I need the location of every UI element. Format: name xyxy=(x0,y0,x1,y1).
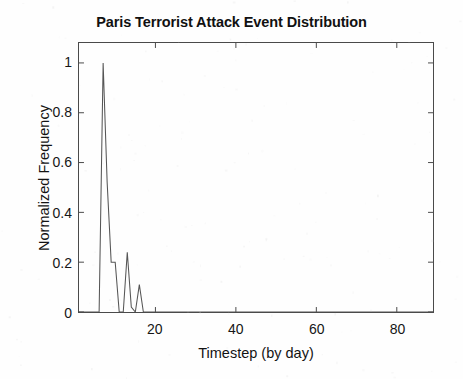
y-axis-ticks xyxy=(79,63,433,312)
plot-svg xyxy=(79,43,433,312)
x-tick-label: 80 xyxy=(390,321,406,337)
figure-canvas: Paris Terrorist Attack Event Distributio… xyxy=(0,0,463,379)
y-tick-label: 0 xyxy=(20,305,72,321)
x-axis-ticks xyxy=(155,43,396,312)
y-axis-title: Normalized Frequency xyxy=(36,68,52,288)
x-tick-label: 60 xyxy=(309,321,325,337)
plot-area xyxy=(78,42,434,313)
series-line-0 xyxy=(79,63,433,312)
x-tick-label: 20 xyxy=(147,321,163,337)
x-tick-label: 40 xyxy=(228,321,244,337)
data-series-group xyxy=(79,63,433,312)
x-axis-title: Timestep (by day) xyxy=(78,345,434,361)
chart-title: Paris Terrorist Attack Event Distributio… xyxy=(0,14,463,30)
